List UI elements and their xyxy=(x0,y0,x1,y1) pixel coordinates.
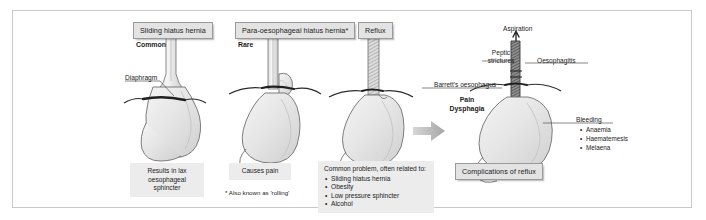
frequency-label-rare: Rare xyxy=(238,41,253,49)
label-reflux[interactable]: Reflux xyxy=(358,22,393,39)
complication-label-pain: Pain xyxy=(444,95,490,104)
figure-panel: Sliding hiatus hernia Common Diaphragm R… xyxy=(12,10,692,208)
bleeding-consequences-list: Anaemia Haematemesis Melaena xyxy=(580,125,628,153)
reflux-anatomy xyxy=(329,33,413,175)
para-oesophageal-hernia-anatomy xyxy=(229,33,321,172)
list-item: Anaemia xyxy=(580,125,628,134)
complication-label-barretts-oesophagus: Barrett's oesophagus xyxy=(434,81,496,89)
label-sliding-hiatus-hernia[interactable]: Sliding hiatus hernia xyxy=(133,22,213,39)
list-item: Sliding hiatus hernia xyxy=(331,175,428,184)
frequency-label-common: Common xyxy=(136,41,166,49)
note-para-oesophageal-result: Causes pain xyxy=(229,163,291,180)
note-reflux-list: Sliding hiatus hernia Obesity Low pressu… xyxy=(324,175,428,209)
complication-label-oesophagitis: Oesophagitis xyxy=(537,57,576,65)
list-item: Alcohol xyxy=(331,200,428,209)
label-para-oesophageal-hiatus-hernia[interactable]: Para-oesophageal hiatus hernia* xyxy=(235,22,355,39)
list-item: Melaena xyxy=(580,143,628,152)
complication-label-peptic-strictures: Peptic strictures xyxy=(479,49,523,65)
progression-arrow xyxy=(413,121,445,141)
complication-label-pain-dysphagia: Pain Dysphagia xyxy=(444,95,490,113)
list-item: Haematemesis xyxy=(580,134,628,143)
label-complications-of-reflux[interactable]: Complications of reflux xyxy=(455,163,543,180)
note-sliding-result: Results in lax oesophageal sphincter xyxy=(130,163,204,197)
sliding-hernia-anatomy xyxy=(124,33,206,161)
complication-label-aspiration: Aspiration xyxy=(503,25,532,33)
complication-label-bleeding: Bleeding xyxy=(576,116,602,124)
list-item: Low pressure sphincter xyxy=(331,192,428,201)
complication-label-dysphagia: Dysphagia xyxy=(444,104,490,113)
list-item: Obesity xyxy=(331,183,428,192)
anatomy-label-diaphragm: Diaphragm xyxy=(125,74,157,82)
note-reflux-causes: Common problem, often related to: Slidin… xyxy=(318,161,434,213)
footnote-rolling: * Also known as 'rolling' xyxy=(225,189,289,197)
note-reflux-heading: Common problem, often related to: xyxy=(324,165,428,174)
